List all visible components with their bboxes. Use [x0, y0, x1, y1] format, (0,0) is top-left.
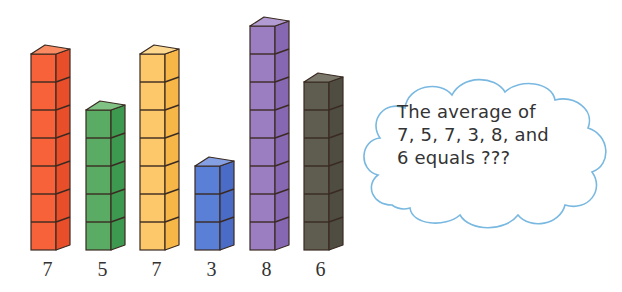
stack-count-label: 5	[88, 258, 118, 281]
cube-stack	[140, 45, 179, 250]
cube-stack	[195, 157, 234, 250]
cloud-line-2: 7, 5, 7, 3, 8, and	[397, 123, 597, 146]
stack-count-label: 8	[252, 258, 282, 281]
cube-stack	[304, 73, 343, 250]
cube-stack	[31, 45, 70, 250]
stack-count-label: 7	[142, 258, 172, 281]
cloud-line-3: 6 equals ???	[397, 146, 597, 169]
thought-cloud-text: The average of 7, 5, 7, 3, 8, and 6 equa…	[397, 100, 597, 169]
cube-stack	[250, 17, 289, 250]
stack-count-label: 6	[306, 258, 336, 281]
cube-stack	[86, 101, 125, 250]
stack-count-label: 3	[197, 258, 227, 281]
cloud-line-1: The average of	[397, 100, 597, 123]
stack-count-label: 7	[33, 258, 63, 281]
